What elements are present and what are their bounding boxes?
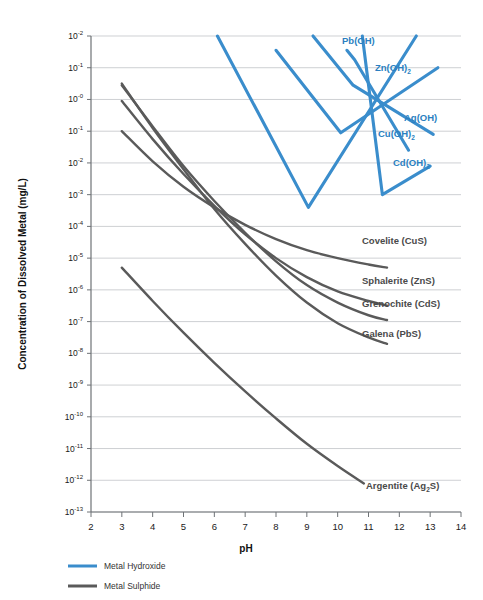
annotation-galena-label: Galena (PbS) [362, 328, 421, 339]
x-axis-title: pH [239, 543, 252, 554]
x-tick-label: 5 [181, 521, 186, 532]
legend-label-hydroxide: Metal Hydroxide [104, 561, 166, 571]
x-tick-label: 2 [88, 521, 93, 532]
metal-solubility-chart: 10-210-110-010-110-210-310-410-510-610-7… [0, 0, 483, 600]
y-axis-title: Concentration of Dissolved Metal (mg/L) [17, 178, 28, 370]
annotation-cd: Cd(OH)2 [393, 157, 430, 170]
annotation-zn: Zn(OH)2 [375, 62, 411, 75]
annotation-pb: Pb(OH) [342, 35, 375, 46]
x-tick-label: 13 [425, 521, 436, 532]
annotation-pb-label: Pb(OH) [342, 35, 375, 46]
chart-figure: 10-210-110-010-110-210-310-410-510-610-7… [0, 0, 483, 600]
annotation-covelite: Covelite (CuS) [362, 235, 427, 246]
x-tick-label: 9 [304, 521, 309, 532]
x-tick-label: 7 [243, 521, 248, 532]
annotation-ag: Ag(OH) [404, 112, 437, 123]
annotation-ag-label: Ag(OH) [404, 112, 437, 123]
x-tick-label: 8 [273, 521, 278, 532]
annotation-covelite-label: Covelite (CuS) [362, 235, 427, 246]
x-tick-label: 4 [150, 521, 155, 532]
annotation-sphalerite: Sphalerite (ZnS) [362, 275, 435, 286]
annotation-grenochite: Grenochite (CdS) [362, 298, 440, 309]
x-tick-label: 6 [212, 521, 217, 532]
annotation-zn-label: Zn(OH)2 [375, 62, 411, 75]
x-tick-label: 10 [332, 521, 343, 532]
annotation-cu: Cu(OH)2 [378, 128, 415, 141]
x-tick-label: 11 [364, 521, 374, 532]
x-tick-label: 12 [394, 521, 405, 532]
legend-label-sulphide: Metal Sulphide [104, 581, 161, 591]
x-tick-label: 3 [119, 521, 124, 532]
annotation-grenochite-label: Grenochite (CdS) [362, 298, 440, 309]
annotation-sphalerite-label: Sphalerite (ZnS) [362, 275, 435, 286]
annotation-galena: Galena (PbS) [362, 328, 421, 339]
x-tick-label: 14 [456, 521, 467, 532]
annotation-cd-label: Cd(OH)2 [393, 157, 430, 170]
annotation-cu-label: Cu(OH)2 [378, 128, 415, 141]
